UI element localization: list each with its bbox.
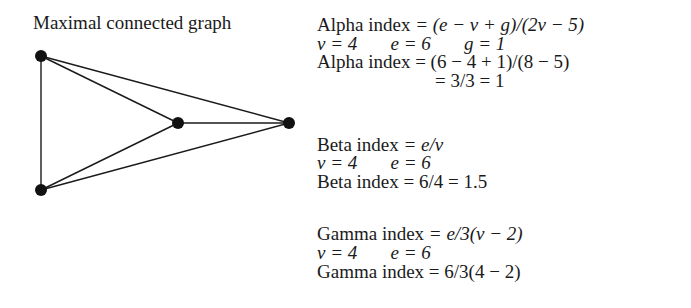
gamma-formula: Gamma index = e/3(v − 2)	[317, 224, 523, 243]
vertex-top-left	[35, 50, 47, 62]
gamma-variables: v = 4 e = 6	[317, 243, 431, 262]
edge-b-d	[41, 123, 178, 190]
beta-variables: v = 4 e = 6	[317, 153, 431, 172]
vertex-bottom-left	[35, 184, 47, 196]
beta-calculation: Beta index = 6/4 = 1.5	[317, 172, 487, 191]
vertex-middle	[172, 117, 184, 129]
alpha-result: = 3/3 = 1	[435, 71, 504, 90]
edge-a-b	[41, 56, 178, 123]
alpha-formula: Alpha index = (e − v + g)/(2v − 5)	[317, 15, 584, 34]
gamma-calculation: Gamma index = 6/3(4 − 2)	[317, 262, 520, 281]
edge-a-c	[41, 56, 289, 123]
alpha-calculation: Alpha index = (6 − 4 + 1)/(8 − 5)	[317, 52, 569, 71]
edge-c-d	[41, 123, 289, 190]
maximal-connected-graph-diagram	[0, 0, 320, 220]
vertex-right	[283, 117, 295, 129]
